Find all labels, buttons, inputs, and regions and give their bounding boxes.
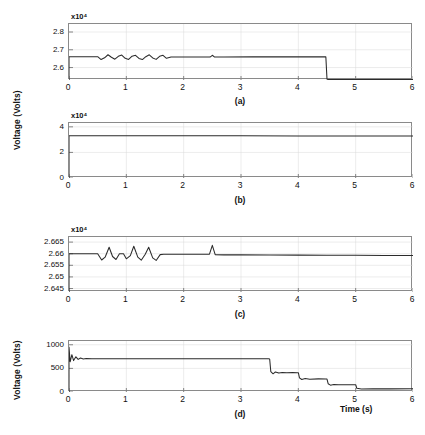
y-axis-exponent-a: x10⁴ xyxy=(71,12,87,21)
y-tick-label: 2.655 xyxy=(30,260,64,269)
y-axis-exponent-c: x10⁴ xyxy=(71,225,87,234)
x-tick-label: 3 xyxy=(238,294,243,304)
x-tick-label: 0 xyxy=(66,294,71,304)
x-tick-label: 5 xyxy=(352,294,357,304)
x-axis-label: Time (s) xyxy=(340,404,372,414)
y-tick-label: 2.645 xyxy=(30,283,64,292)
y-axis-exponent-b: x10⁴ xyxy=(71,111,87,120)
y-tick-label: 2.6 xyxy=(30,62,64,71)
y-tick-label: 1000 xyxy=(30,339,64,348)
plot-area-b xyxy=(68,122,412,177)
x-tick-label: 0 xyxy=(66,394,71,404)
y-tick-label: 4 xyxy=(30,121,64,130)
plot-area-c xyxy=(68,236,412,291)
x-tick-label: 1 xyxy=(123,82,128,92)
y-tick-label: 2.665 xyxy=(30,237,64,246)
y-tick-label: 2.8 xyxy=(30,27,64,36)
x-tick-label: 6 xyxy=(410,394,415,404)
panel-caption-b: (b) xyxy=(235,195,246,205)
x-tick-label: 6 xyxy=(410,180,415,190)
x-tick-label: 4 xyxy=(295,294,300,304)
x-tick-label: 3 xyxy=(238,394,243,404)
y-tick-label: 0 xyxy=(30,173,64,182)
x-tick-label: 3 xyxy=(238,82,243,92)
y-tick-label: 2.66 xyxy=(30,248,64,257)
y-axis-label-top: Voltage (Volts) xyxy=(12,90,22,150)
x-tick-label: 3 xyxy=(238,180,243,190)
x-tick-label: 2 xyxy=(180,82,185,92)
panel-caption-d: (d) xyxy=(235,409,246,419)
panel-caption-c: (c) xyxy=(235,309,245,319)
x-tick-label: 2 xyxy=(180,180,185,190)
y-tick-label: 0 xyxy=(30,387,64,396)
x-tick-label: 4 xyxy=(295,394,300,404)
x-tick-label: 1 xyxy=(123,180,128,190)
x-tick-label: 4 xyxy=(295,82,300,92)
x-tick-label: 4 xyxy=(295,180,300,190)
x-tick-label: 2 xyxy=(180,294,185,304)
x-tick-label: 6 xyxy=(410,294,415,304)
x-tick-label: 5 xyxy=(352,180,357,190)
x-tick-label: 1 xyxy=(123,394,128,404)
y-tick-label: 2 xyxy=(30,147,64,156)
x-tick-label: 1 xyxy=(123,294,128,304)
x-tick-label: 5 xyxy=(352,394,357,404)
y-tick-label: 2.65 xyxy=(30,271,64,280)
plot-area-d xyxy=(68,340,412,391)
x-tick-label: 5 xyxy=(352,82,357,92)
y-tick-label: 500 xyxy=(30,363,64,372)
y-tick-label: 2.7 xyxy=(30,44,64,53)
x-tick-label: 0 xyxy=(66,180,71,190)
x-tick-label: 6 xyxy=(410,82,415,92)
panel-caption-a: (a) xyxy=(235,96,245,106)
multi-panel-voltage-figure: Voltage (Volts) Voltage (Volts) x10⁴2.62… xyxy=(0,0,425,435)
x-tick-label: 0 xyxy=(66,82,71,92)
y-axis-label-bottom: Voltage (Volts) xyxy=(12,340,22,400)
plot-area-a xyxy=(68,23,412,79)
x-tick-label: 2 xyxy=(180,394,185,404)
